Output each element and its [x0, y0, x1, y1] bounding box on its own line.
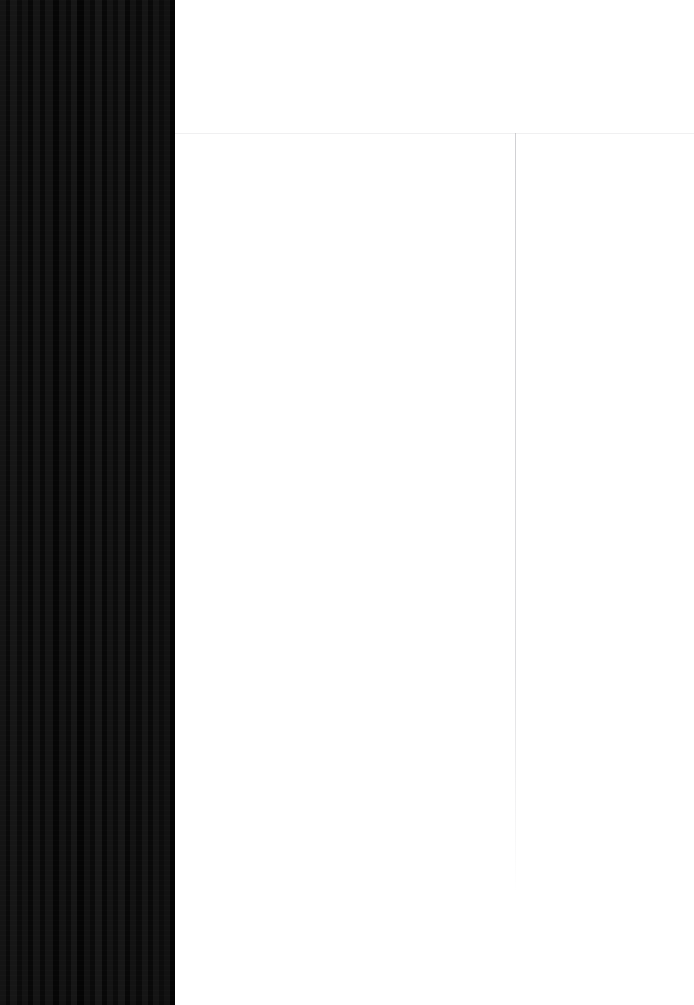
- screenshot-root: [0, 0, 694, 1005]
- content-body: [175, 134, 694, 1005]
- panel-stripe: [118, 0, 125, 1005]
- panel-stripe: [59, 0, 66, 1005]
- panel-stripe: [95, 0, 102, 1005]
- content-header: [175, 0, 694, 133]
- right-edge-rule: [515, 133, 516, 893]
- panel-stripe: [77, 0, 84, 1005]
- panel-stripe: [33, 0, 40, 1005]
- panel-stripe: [45, 0, 53, 1005]
- content-pane: [175, 0, 694, 1005]
- panel-stripe: [10, 0, 17, 1005]
- dark-striped-panel: [0, 0, 175, 1005]
